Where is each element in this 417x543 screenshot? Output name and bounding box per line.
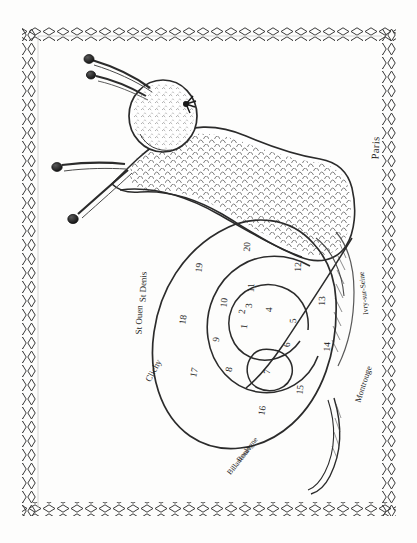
snail-head [129, 80, 197, 152]
arrondissement-number: 5 [288, 318, 298, 323]
arrondissement-number: 4 [264, 307, 274, 312]
paper-background [0, 0, 417, 543]
tentacle-bulb [84, 55, 94, 64]
arrondissement-number: 6 [282, 342, 292, 348]
label-st-ouen: St Ouen [133, 305, 144, 335]
arrondissement-number: 18 [177, 314, 188, 325]
arrondissement-number: 11 [246, 283, 257, 293]
arrondissement-number: 16 [256, 405, 268, 416]
label-st-denis: St Denis [137, 271, 148, 303]
arrondissement-number: 20 [242, 241, 253, 251]
tentacle-bulb [68, 214, 78, 223]
drawing-page: 1 2 3 4 5 6 7 8 9 10 11 12 13 14 15 16 1… [0, 0, 417, 543]
arrondissement-number: 15 [295, 384, 306, 395]
arrondissement-number: 13 [317, 296, 327, 306]
arrondissement-number: 10 [219, 297, 230, 308]
arrondissement-number: 19 [194, 262, 205, 273]
arrondissement-number: 12 [293, 262, 303, 272]
arrondissement-number: 3 [244, 303, 254, 309]
tentacle-bulb [86, 71, 95, 79]
snail-paris-illustration: 1 2 3 4 5 6 7 8 9 10 11 12 13 14 15 16 1… [0, 0, 417, 543]
label-paris: Paris [370, 136, 382, 159]
tentacle-bulb [52, 163, 62, 172]
arrondissement-number: 14 [322, 341, 333, 351]
